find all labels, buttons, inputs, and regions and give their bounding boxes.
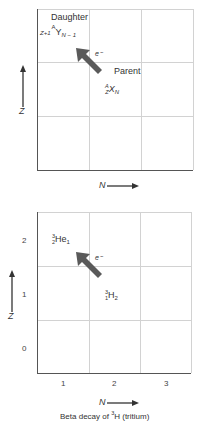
daughter-label: Daughter [51, 12, 88, 22]
grid-line-v2 [141, 9, 142, 170]
tritium-symbol: 31H2 [105, 290, 118, 301]
x-axis-line [37, 170, 193, 171]
x-tick-3: 3 [164, 379, 168, 388]
grid-top-border [37, 9, 193, 10]
parent-label: Parent [114, 66, 141, 76]
caption: Beta decay of 3H (tritium) [60, 410, 149, 421]
grid-line-h1 [37, 62, 193, 63]
grid-line-h2 [37, 320, 191, 321]
grid-right-border [193, 9, 194, 170]
x-tick-2: 2 [112, 379, 116, 388]
z-axis-label: Z [8, 311, 14, 321]
parent-symbol: AZXN [105, 84, 119, 95]
grid-line-v1 [89, 9, 90, 170]
n-axis-arrow-icon [107, 182, 139, 190]
grid-line-v1 [89, 212, 90, 373]
z-axis-arrow-icon [8, 270, 16, 312]
grid-top-border [37, 212, 191, 213]
y-tick-0: 0 [22, 344, 26, 353]
x-axis-line [37, 373, 191, 374]
n-axis-label: N [99, 180, 106, 190]
n-axis-label: N [99, 397, 106, 407]
grid-line-h1 [37, 266, 191, 267]
y-tick-1: 1 [22, 290, 26, 299]
y-axis-line [37, 9, 38, 170]
grid-line-h2 [37, 116, 193, 117]
electron-label: e⁻ [95, 254, 103, 262]
daughter-symbol: Z+1AYN − 1 [40, 28, 76, 37]
z-axis-label: Z [19, 106, 25, 116]
helium-symbol: 32He1 [52, 234, 70, 245]
grid-line-v2 [140, 212, 141, 373]
z-axis-arrow-icon [19, 65, 27, 107]
electron-label: e⁻ [95, 50, 103, 58]
y-axis-line [37, 212, 38, 373]
y-tick-2: 2 [22, 236, 26, 245]
n-axis-arrow-icon [107, 399, 139, 407]
grid-right-border [191, 212, 192, 373]
x-tick-1: 1 [61, 379, 65, 388]
